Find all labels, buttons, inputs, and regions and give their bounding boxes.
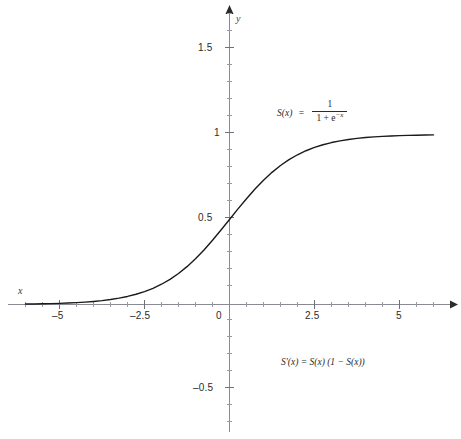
x-tick-label-pos5: 5 xyxy=(396,310,402,321)
sigmoid-function-figure: –5 –2.5 0 2.5 5 1.5 1 0.5 –0.5 x y S(x) … xyxy=(0,0,461,439)
sigmoid-derivative-annotation: S′(x) = S(x) (1 − S(x)) xyxy=(281,357,365,367)
y-tick-label-pos0-5: 0.5 xyxy=(198,212,213,223)
formula-equals: = xyxy=(299,108,304,118)
plot-canvas xyxy=(0,0,461,439)
formula-denominator-base: 1 + e xyxy=(316,113,335,123)
figure-caption xyxy=(0,425,461,439)
formula-fraction: 1 1 + e−x xyxy=(312,99,347,124)
x-tick-label-pos2-5: 2.5 xyxy=(305,310,320,321)
y-tick-label-neg0-5: –0.5 xyxy=(193,382,213,393)
y-tick-label-pos1-5: 1.5 xyxy=(198,42,213,53)
y-tick-label-pos1: 1 xyxy=(214,127,220,138)
y-axis-arrowhead xyxy=(226,5,234,14)
y-axis-label: y xyxy=(236,13,240,24)
x-tick-label-neg2-5: –2.5 xyxy=(130,310,150,321)
x-tick-label-zero: 0 xyxy=(216,310,222,321)
x-tick-label-neg5: –5 xyxy=(52,310,64,321)
x-axis-arrowhead xyxy=(450,301,458,309)
formula-lhs: S(x) xyxy=(277,108,292,118)
formula-denominator: 1 + e−x xyxy=(312,112,347,124)
x-axis-label: x xyxy=(18,285,22,296)
sigmoid-definition-annotation: S(x) = 1 1 + e−x xyxy=(277,100,349,125)
formula-denominator-exponent: −x xyxy=(335,111,343,119)
